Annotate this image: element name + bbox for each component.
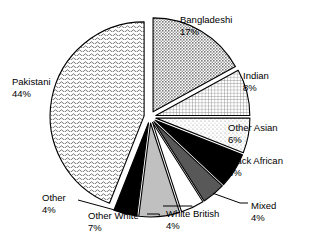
pie-label-name: Pakistani (12, 76, 51, 87)
pie-label-other-white: Other White7% (88, 210, 139, 233)
leader-line-mixed (213, 193, 248, 203)
pie-chart-figure: Bangladeshi17%Indian8%Other Asian6%Black… (0, 0, 315, 244)
pie-label-percent: 4% (42, 204, 66, 216)
pie-label-percent: 6% (228, 134, 278, 146)
pie-label-name: Other White (88, 210, 139, 221)
pie-label-name: Other Asian (228, 122, 278, 133)
pie-label-mixed: Mixed4% (251, 200, 276, 223)
pie-label-name: Black African (228, 155, 283, 166)
pie-label-name: Other (42, 192, 66, 203)
pie-slices-group (50, 18, 250, 217)
pie-label-percent: 17% (180, 26, 232, 38)
pie-label-name: White British (166, 208, 219, 219)
pie-label-pakistani: Pakistani44% (12, 76, 51, 99)
pie-label-other: Other4% (42, 192, 66, 215)
pie-label-name: Indian (243, 70, 269, 81)
pie-label-other-asian: Other Asian6% (228, 122, 278, 145)
pie-label-name: Bangladeshi (180, 14, 232, 25)
pie-label-percent: 4% (166, 220, 219, 232)
pie-label-percent: 4% (251, 212, 276, 224)
pie-label-percent: 8% (243, 82, 269, 94)
pie-label-name: Mixed (251, 200, 276, 211)
pie-label-black-african: Black African6% (228, 155, 283, 178)
pie-label-percent: 6% (228, 167, 283, 179)
pie-label-percent: 7% (88, 222, 139, 234)
pie-label-bangladeshi: Bangladeshi17% (180, 14, 232, 37)
pie-label-indian: Indian8% (243, 70, 269, 93)
pie-label-white-british: White British4% (166, 208, 219, 231)
pie-label-percent: 44% (12, 88, 51, 100)
